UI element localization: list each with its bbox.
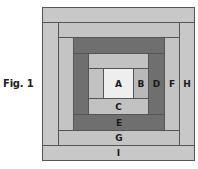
piece-e-top-strip — [73, 37, 165, 54]
piece-g-top-strip — [58, 22, 180, 38]
piece-c-top-strip — [88, 53, 149, 69]
piece-g-left-strip — [58, 37, 74, 131]
piece-e-left-strip — [73, 53, 89, 115]
label-b: B — [133, 68, 149, 99]
piece-c-left-strip — [88, 68, 104, 99]
label-e: E — [73, 114, 165, 131]
label-c: C — [88, 98, 149, 115]
label-d: D — [148, 68, 165, 99]
piece-i-top-strip — [42, 7, 195, 23]
label-a: A — [103, 68, 134, 99]
label-g: G — [58, 130, 180, 146]
label-h: H — [179, 68, 195, 99]
label-f: F — [164, 68, 180, 99]
label-i: I — [42, 145, 195, 161]
piece-i-left-strip — [42, 22, 59, 146]
figure-label: Fig. 1 — [3, 78, 33, 89]
